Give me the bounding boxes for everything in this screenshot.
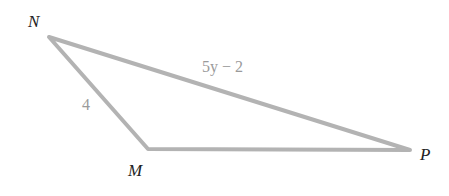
triangle-svg: N M P 5y − 2 4 [0,0,449,196]
triangle-nmp [49,37,410,150]
vertex-label-p: P [419,145,430,164]
vertex-label-n: N [27,12,41,31]
side-label-np: 5y − 2 [202,58,243,76]
side-label-nm: 4 [82,96,90,113]
triangle-diagram: N M P 5y − 2 4 [0,0,449,196]
vertex-label-m: M [127,161,143,180]
